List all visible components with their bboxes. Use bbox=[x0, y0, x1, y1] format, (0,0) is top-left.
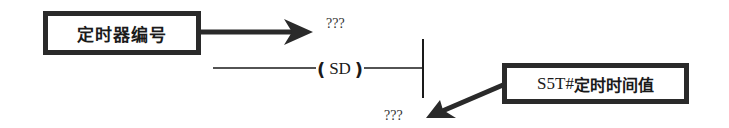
timer-number-placeholder: ??? bbox=[326, 16, 345, 32]
coil-instruction: SD bbox=[329, 59, 351, 79]
sd-coil: ( SD ) bbox=[313, 58, 367, 80]
time-value-prefix: S5T# bbox=[537, 74, 574, 94]
time-value-placeholder: ??? bbox=[384, 108, 403, 124]
timer-number-label: 定时器编号 bbox=[77, 21, 167, 46]
arrow-to-timer-number bbox=[200, 19, 313, 45]
time-value-label-box: S5T# 定时时间值 bbox=[502, 63, 689, 104]
coil-close-paren: ) bbox=[355, 59, 363, 80]
coil-open-paren: ( bbox=[317, 59, 325, 80]
timer-number-label-box: 定时器编号 bbox=[43, 11, 201, 55]
arrow-to-time-value bbox=[426, 85, 503, 118]
time-value-label: 定时时间值 bbox=[574, 72, 654, 96]
timer-sd-diagram: 定时器编号 ??? ( SD ) S5T# 定时时间值 ??? bbox=[0, 0, 729, 128]
